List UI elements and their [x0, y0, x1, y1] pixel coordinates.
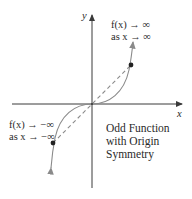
description-line2: with Origin	[106, 135, 159, 148]
x-axis-label: x	[177, 108, 182, 120]
annotation-upper-right-line1: f(x) → ∞	[111, 19, 150, 31]
annotation-lower-left-line1: f(x) → −∞	[9, 119, 54, 131]
description-line1: Odd Function	[106, 122, 170, 135]
description-line3: Symmetry	[106, 148, 154, 161]
point-upper-right	[129, 63, 134, 68]
annotation-lower-left-line2: as x → −∞	[9, 131, 55, 143]
origin-point	[91, 103, 93, 105]
odd-function-graph	[0, 0, 192, 199]
annotation-upper-right-line2: as x → ∞	[111, 31, 151, 43]
y-axis-label: y	[82, 10, 87, 22]
